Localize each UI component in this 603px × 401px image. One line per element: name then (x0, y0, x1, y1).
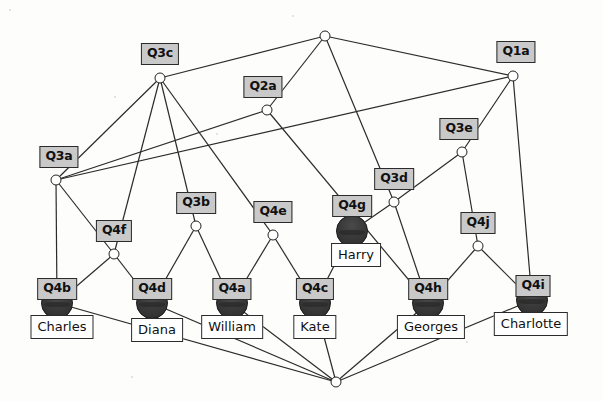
q-label-q4b[interactable]: Q4b (37, 278, 77, 300)
entity-node-q3e[interactable] (457, 147, 468, 158)
graph-edge (513, 76, 532, 300)
q-label-q4i[interactable]: Q4i (515, 275, 550, 297)
name-label-charlotte[interactable]: Charlotte (494, 312, 568, 336)
junction-node-top[interactable] (320, 31, 331, 42)
q-label-q4c[interactable]: Q4c (296, 278, 334, 300)
entity-node-q4e[interactable] (268, 230, 279, 241)
q-label-q3c[interactable]: Q3c (141, 43, 179, 65)
q-label-q4h[interactable]: Q4h (408, 278, 448, 300)
q-label-q4e[interactable]: Q4e (253, 201, 292, 223)
name-label-william[interactable]: William (201, 315, 263, 339)
graph-edge (160, 36, 325, 78)
q-label-q3e[interactable]: Q3e (439, 118, 478, 140)
q-label-q3d[interactable]: Q3d (374, 168, 414, 190)
entity-node-q3a[interactable] (51, 175, 62, 186)
q-label-q4a[interactable]: Q4a (212, 278, 251, 300)
junction-node-bottom[interactable] (331, 377, 342, 388)
q-label-q4g[interactable]: Q4g (332, 195, 372, 217)
entity-node-q2a[interactable] (262, 105, 273, 116)
q-label-q4d[interactable]: Q4d (132, 278, 172, 300)
entity-node-q3c[interactable] (155, 73, 166, 84)
name-label-diana[interactable]: Diana (131, 318, 183, 342)
graph-edge (462, 76, 513, 152)
q-label-q4f[interactable]: Q4f (96, 220, 132, 242)
entity-node-q1a[interactable] (508, 71, 519, 82)
entity-node-q3b[interactable] (191, 221, 202, 232)
q-label-q1a[interactable]: Q1a (496, 41, 535, 63)
entity-node-q4j[interactable] (473, 241, 484, 252)
diagram-canvas: Q3cQ1aQ2aQ3eQ3aQ3dQ3bQ4eQ4fQ4jHarryQ4gCh… (0, 0, 603, 401)
name-label-georges[interactable]: Georges (397, 315, 465, 339)
name-label-harry[interactable]: Harry (331, 243, 381, 267)
entity-node-q3d[interactable] (389, 197, 400, 208)
q-label-q3a[interactable]: Q3a (39, 146, 78, 168)
q-label-q2a[interactable]: Q2a (243, 76, 282, 98)
q-label-q3b[interactable]: Q3b (176, 192, 216, 214)
graph-edge (267, 36, 325, 110)
name-label-kate[interactable]: Kate (293, 315, 336, 339)
q-label-q4j[interactable]: Q4j (460, 212, 495, 234)
name-label-charles[interactable]: Charles (30, 315, 93, 339)
graph-edge (325, 36, 513, 76)
graph-edge (56, 180, 114, 254)
entity-node-q4f[interactable] (109, 249, 120, 260)
graph-edge (56, 110, 267, 180)
